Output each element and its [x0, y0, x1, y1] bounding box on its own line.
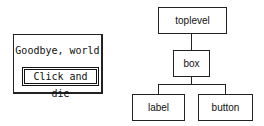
node-box: box	[174, 51, 210, 77]
node-button-label: button	[212, 102, 240, 113]
node-toplevel-label: toplevel	[175, 15, 209, 26]
node-label: label	[133, 95, 185, 121]
node-box-label: box	[183, 58, 199, 69]
widget-tree-diagram: toplevel box label button	[0, 0, 264, 126]
node-toplevel: toplevel	[159, 8, 227, 34]
node-label-label: label	[148, 102, 169, 113]
node-button: button	[199, 95, 253, 121]
